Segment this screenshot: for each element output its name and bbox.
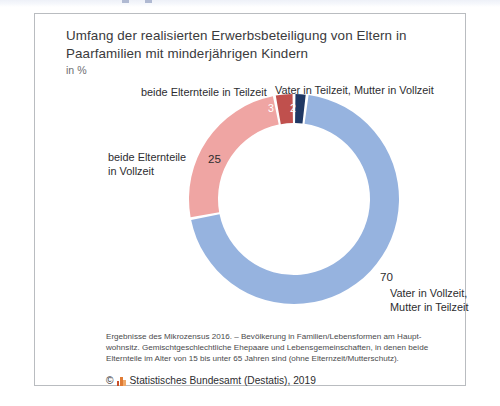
page-top-strip [0, 0, 500, 7]
chart-subtitle-unit: in % [66, 64, 87, 76]
copyright-text: Statistisches Bundesamt (Destatis), 2019 [130, 375, 316, 386]
donut-slice [295, 94, 306, 123]
slice-value-beide-teilzeit: 3 [268, 102, 274, 114]
copyright-symbol: © [106, 375, 114, 386]
strip-tick-icon [122, 0, 129, 3]
callout-vater-teilzeit-mutter-vollzeit: Vater in Teilzeit, Mutter in Vollzeit [275, 84, 434, 98]
slice-value-vater-vollzeit: 70 [380, 270, 393, 283]
footnote-line-1: Ergebnisse des Mikrozensus 2016. – Bevöl… [106, 331, 461, 342]
strip-tick-icon [145, 0, 152, 3]
footnote-block: Ergebnisse des Mikrozensus 2016. – Bevöl… [106, 331, 461, 365]
callout-vater-vollzeit-mutter-teilzeit: Vater in Vollzeit, Mutter in Teilzeit [390, 287, 468, 314]
slice-value-beide-vollzeit: 25 [208, 152, 221, 165]
chart-title: Umfang der realisierten Erwerbsbeteiligu… [66, 27, 446, 62]
destatis-bars-icon [117, 377, 128, 386]
callout-line-2: in Vollzeit [108, 165, 186, 179]
callout-line-2: Mutter in Teilzeit [390, 301, 468, 315]
footnote-line-2: wohnsitz. Gemischtgeschlechtliche Ehepaa… [106, 342, 461, 353]
callout-line-1: Vater in Vollzeit, [390, 287, 468, 301]
donut-svg [185, 90, 403, 308]
donut-slice [189, 96, 279, 217]
donut-chart [185, 90, 403, 308]
slice-value-vater-teilzeit: 2 [290, 102, 296, 114]
callout-line-1: beide Elternteile [108, 151, 186, 165]
callout-beide-elternteile-teilzeit: beide Elternteile in Teilzeit [141, 86, 267, 100]
chart-card: Umfang der realisierten Erwerbsbeteiligu… [34, 13, 466, 386]
callout-beide-elternteile-vollzeit: beide Elternteile in Vollzeit [108, 151, 186, 178]
footnote-line-3: Elternteile im Alter von 15 bis unter 65… [106, 353, 461, 364]
copyright-line: © Statistisches Bundesamt (Destatis), 20… [106, 375, 316, 386]
